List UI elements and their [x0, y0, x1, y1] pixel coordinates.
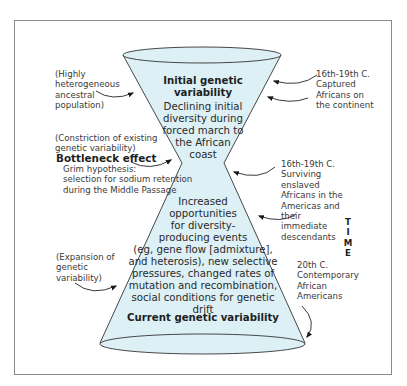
- current-variability-title: Current genetic variability: [122, 312, 284, 324]
- label-expansion: (Expansion of genetic variability): [56, 252, 136, 283]
- increased-opportunities-text: Increased opportunities for diversity- p…: [122, 196, 284, 316]
- arrow-captured-2: [268, 97, 308, 101]
- label-bottleneck-effect: Bottleneck effect: [56, 152, 176, 164]
- label-captured-africans: 16th-19th C. Captured Africans on the co…: [316, 69, 386, 111]
- arrow-captured-1: [274, 75, 317, 83]
- label-grim-hypothesis: Grim hypothesis: selection for sodium re…: [63, 164, 193, 195]
- label-contemporary: 20th C. Contemporary African Americans: [297, 260, 377, 302]
- arrow-expansion: [75, 283, 116, 291]
- arrow-surviving: [234, 167, 275, 176]
- label-ancestral-population: (Highly heterogeneous ancestral populati…: [55, 69, 145, 111]
- top-ellipse: [123, 47, 281, 63]
- bottom-ellipse: [100, 334, 305, 354]
- label-constriction: (Constriction of existing genetic variab…: [55, 133, 175, 154]
- initial-variability-title: Initial genetic variability: [150, 75, 256, 99]
- time-axis-label: T I M E: [342, 217, 354, 259]
- arrow-contemporary: [302, 306, 311, 337]
